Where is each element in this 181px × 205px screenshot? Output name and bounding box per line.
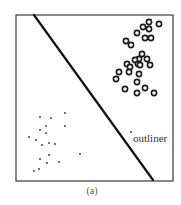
circle-marker — [146, 19, 151, 24]
circle-marker — [144, 56, 149, 61]
circle-marker — [142, 35, 147, 40]
circle-marker — [136, 71, 141, 76]
circle-marker — [134, 90, 139, 95]
circle-marker — [116, 69, 121, 74]
dot-marker — [33, 170, 35, 172]
circle-marker — [113, 76, 118, 81]
dot-marker — [79, 153, 81, 155]
dot-marker — [58, 161, 60, 163]
dot-marker — [45, 132, 47, 134]
circle-marker — [126, 69, 131, 74]
circle-marker — [122, 86, 127, 91]
dot-marker — [46, 162, 48, 164]
circle-marker — [137, 62, 142, 67]
decision-boundary-line — [34, 15, 153, 180]
dot-marker — [35, 139, 37, 141]
outlier-point — [130, 131, 132, 133]
dot-marker — [54, 143, 56, 145]
dot-marker — [41, 144, 43, 146]
outlier-label: outliner — [133, 132, 168, 144]
circle-marker — [140, 24, 145, 29]
scatter-figure: outliner (a) — [0, 0, 181, 205]
dot-marker — [50, 117, 52, 119]
circle-class-points — [113, 19, 161, 95]
dot-marker — [48, 142, 50, 144]
circle-marker — [148, 35, 153, 40]
circle-marker — [146, 26, 151, 31]
circle-marker — [151, 90, 156, 95]
dot-marker — [39, 129, 41, 131]
circle-marker — [123, 38, 128, 43]
circle-marker — [142, 85, 147, 90]
dot-marker — [38, 168, 40, 170]
circle-marker — [147, 62, 152, 67]
circle-marker — [134, 30, 139, 35]
dot-marker — [39, 158, 41, 160]
figure-caption: (a) — [86, 185, 97, 197]
dot-marker — [64, 112, 66, 114]
dot-marker — [39, 116, 41, 118]
dot-marker — [130, 131, 132, 133]
dot-marker — [48, 154, 50, 156]
dot-marker — [28, 136, 30, 138]
dot-class-points — [28, 112, 81, 172]
circle-marker — [128, 42, 133, 47]
circle-marker — [156, 21, 161, 26]
circle-marker — [134, 79, 139, 84]
dot-marker — [45, 125, 47, 127]
dot-marker — [64, 125, 66, 127]
